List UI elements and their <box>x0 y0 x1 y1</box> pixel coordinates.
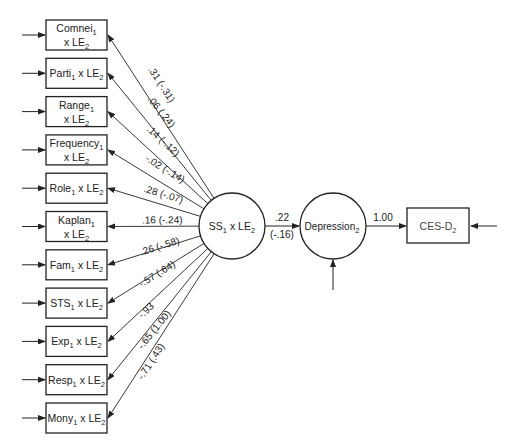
indicator-box: Parti1 x LE2 <box>22 58 107 88</box>
indicator-box: Frequency1x LE2 <box>22 135 107 166</box>
indicator-box: Comnei1x LE2 <box>22 20 107 51</box>
indicator-box: Range1x LE2 <box>22 97 107 128</box>
path-ss-to-depression: .22 (-.16) <box>265 212 299 240</box>
indicator-box: Mony1 x LE2 <box>22 403 107 433</box>
loading-coef: .28 (-.07) <box>143 183 185 205</box>
loading-coef: .26 (-.58) <box>139 235 181 258</box>
observed-cesd: CES-D2 <box>407 208 497 243</box>
factor-loading-paths: .31 (-.31).06 (.24).14 (-.12)-.02 (-.14)… <box>108 35 214 418</box>
coef-depression-cesd: 1.00 <box>373 212 393 223</box>
loading-coef: .16 (-.24) <box>142 214 183 225</box>
coef-ss-depression-alt: (-.16) <box>270 229 294 240</box>
indicator-box: Resp1 x LE2 <box>22 365 107 395</box>
loading-coef: -.93 <box>136 300 156 320</box>
indicator-box: Role1 x LE2 <box>22 173 107 203</box>
loading-path <box>108 254 214 418</box>
latent-ss-x-le: SS1 x LE2 <box>199 193 265 259</box>
loading-coef: -.02 (-.14) <box>144 153 187 185</box>
indicator-boxes: Comnei1x LE2Parti1 x LE2Range1x LE2Frequ… <box>22 20 107 433</box>
indicator-box: Exp1 x LE2 <box>22 326 107 356</box>
path-depression-to-cesd: 1.00 <box>366 212 406 226</box>
ss-label: SS <box>209 220 223 232</box>
loading-coef: -.57 (.64) <box>137 258 177 289</box>
indicator-box: Kaplan1x LE2 <box>22 212 107 243</box>
indicator-box: Fam1 x LE2 <box>22 250 107 280</box>
latent-depression: Depression2 <box>300 193 366 290</box>
indicator-box: STS1 x LE2 <box>22 288 107 318</box>
path-diagram: .31 (-.31).06 (.24).14 (-.12)-.02 (-.14)… <box>0 0 512 446</box>
coef-ss-depression: .22 <box>275 212 289 223</box>
